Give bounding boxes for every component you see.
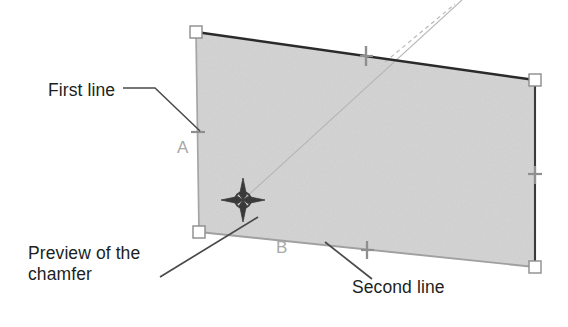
grip-bottom-left[interactable] [193, 226, 205, 238]
vertex-label-b: B [276, 238, 287, 258]
extension-dashed-line [385, 4, 455, 62]
selected-quadrilateral-noise-overlay [196, 32, 535, 267]
vertex-label-a: A [177, 138, 188, 158]
grip-top-right[interactable] [529, 74, 541, 86]
callout-preview-of-chamfer: Preview of thechamfer [28, 243, 140, 284]
shape-fill-group [196, 32, 535, 267]
grip-top-left[interactable] [190, 26, 202, 38]
cad-chamfer-figure: First line Preview of thechamfer Second … [0, 0, 568, 327]
leader-first-line [123, 88, 200, 131]
callout-preview-line-1: Preview of the [28, 243, 140, 263]
callout-second-line: Second line [352, 277, 445, 298]
callout-preview-line-2: chamfer [28, 264, 92, 284]
callout-first-line: First line [48, 80, 115, 101]
grip-bottom-right[interactable] [529, 261, 541, 273]
